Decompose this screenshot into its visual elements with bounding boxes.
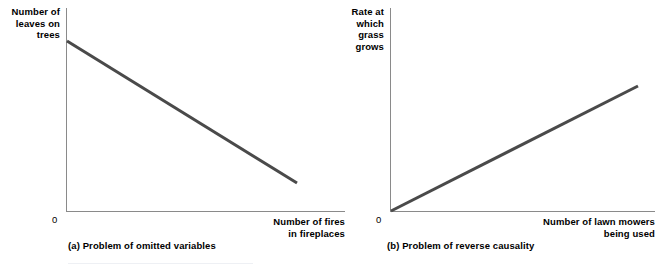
chart-panel-b: Rate at which grass grows Number of lawn…	[324, 0, 660, 269]
caption-b: (b) Problem of reverse causality	[387, 240, 534, 251]
trend-line-a	[67, 41, 297, 183]
scan-artifact-rule	[68, 263, 253, 264]
chart-panel-a: Number of leaves on trees Number of fire…	[0, 0, 360, 269]
plot-line-a-svg	[0, 0, 360, 269]
plot-line-b-svg	[324, 0, 660, 269]
trend-line-b	[391, 86, 638, 211]
figure-container: Number of leaves on trees Number of fire…	[0, 0, 660, 269]
caption-a: (a) Problem of omitted variables	[68, 240, 216, 251]
